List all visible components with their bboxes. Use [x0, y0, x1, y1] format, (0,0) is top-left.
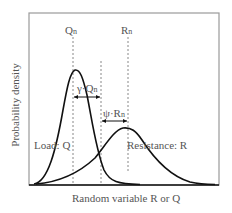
psi-rn-label: ψ·Rn — [103, 108, 125, 119]
qn-label: Qn — [65, 25, 77, 36]
gamma-arrowhead-left — [74, 95, 78, 99]
qn-label-sub: n — [73, 27, 77, 36]
psi-arrowhead-left — [102, 119, 106, 123]
load-label: Load: Q — [34, 140, 70, 151]
gamma-qn-label: γ·Qn — [77, 83, 97, 94]
psi-rn-label-main: ψ·R — [103, 107, 121, 119]
resistance-curve — [36, 128, 215, 185]
rn-label: Rn — [121, 25, 132, 36]
x-axis-label: Random variable R or Q — [72, 193, 180, 204]
resistance-label: Resistance: R — [127, 140, 187, 151]
gamma-qn-label-main: γ·Q — [77, 82, 93, 94]
psi-arrowhead-right — [123, 119, 127, 123]
plot-frame — [29, 13, 219, 185]
gamma-arrowhead-right — [96, 95, 100, 99]
psi-rn-label-sub: n — [121, 110, 125, 119]
gamma-qn-label-sub: n — [93, 85, 97, 94]
y-axis-label: Probability density — [9, 45, 21, 165]
rn-label-sub: n — [128, 27, 132, 36]
qn-label-main: Q — [65, 24, 73, 36]
